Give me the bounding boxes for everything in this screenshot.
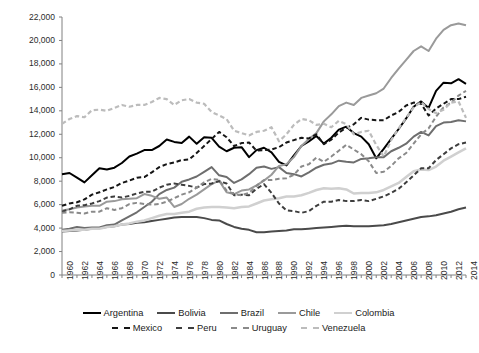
x-tick-label: 2002 bbox=[380, 261, 389, 280]
y-tick-label: 16,000 bbox=[0, 83, 55, 92]
series-line-mexico bbox=[62, 97, 466, 206]
legend-item-uruguay[interactable]: Uruguay bbox=[231, 324, 287, 333]
legend-item-peru[interactable]: Peru bbox=[176, 324, 217, 333]
legend-item-colombia[interactable]: Colombia bbox=[334, 309, 394, 318]
legend-item-bolivia[interactable]: Bolivia bbox=[157, 309, 205, 318]
legend-label: Argentina bbox=[104, 309, 144, 318]
y-tick-label: 0 bbox=[0, 271, 55, 280]
legend-swatch-icon bbox=[278, 312, 296, 314]
x-tick-label: 2008 bbox=[425, 261, 434, 280]
series-line-brazil bbox=[62, 120, 466, 230]
y-tick-label: 10,000 bbox=[0, 153, 55, 162]
legend-row-2: MexicoPeruUruguayVenezuela bbox=[0, 321, 477, 336]
y-tick-label: 4,000 bbox=[0, 224, 55, 233]
x-tick-label: 1974 bbox=[171, 261, 180, 280]
series-line-uruguay bbox=[62, 91, 466, 214]
x-tick-label: 2000 bbox=[365, 261, 374, 280]
axis-group bbox=[62, 17, 466, 275]
x-tick-label: 1976 bbox=[186, 261, 195, 280]
y-tick-label: 20,000 bbox=[0, 36, 55, 45]
x-tick-label: 1994 bbox=[320, 261, 329, 280]
x-tick-label: 1964 bbox=[96, 261, 105, 280]
x-tick-label: 1990 bbox=[290, 261, 299, 280]
legend-label: Uruguay bbox=[252, 324, 287, 333]
legend-label: Colombia bbox=[355, 309, 394, 318]
x-tick-label: 1992 bbox=[305, 261, 314, 280]
x-tick-label: 1978 bbox=[201, 261, 210, 280]
legend-swatch-icon bbox=[301, 327, 319, 329]
x-tick-label: 1966 bbox=[111, 261, 120, 280]
legend-item-brazil[interactable]: Brazil bbox=[220, 309, 264, 318]
legend-item-venezuela[interactable]: Venezuela bbox=[301, 324, 365, 333]
legend-label: Peru bbox=[197, 324, 217, 333]
legend-swatch-icon bbox=[112, 327, 130, 329]
x-tick-label: 1982 bbox=[231, 261, 240, 280]
x-tick-label: 1996 bbox=[335, 261, 344, 280]
legend-swatch-icon bbox=[231, 327, 249, 329]
x-tick-label: 1980 bbox=[216, 261, 225, 280]
legend-swatch-icon bbox=[334, 312, 352, 314]
legend-label: Chile bbox=[299, 309, 320, 318]
legend-label: Venezuela bbox=[322, 324, 365, 333]
x-tick-label: 2006 bbox=[410, 261, 419, 280]
x-tick-label: 1962 bbox=[81, 261, 90, 280]
y-tick-label: 6,000 bbox=[0, 200, 55, 209]
x-tick-label: 2012 bbox=[455, 261, 464, 280]
x-tick-label: 1960 bbox=[66, 261, 75, 280]
y-tick-label: 2,000 bbox=[0, 247, 55, 256]
x-tick-label: 1970 bbox=[141, 261, 150, 280]
x-tick-label: 1972 bbox=[156, 261, 165, 280]
legend-label: Mexico bbox=[133, 324, 162, 333]
x-tick-label: 1986 bbox=[261, 261, 270, 280]
legend-item-chile[interactable]: Chile bbox=[278, 309, 320, 318]
legend-swatch-icon bbox=[83, 312, 101, 314]
x-tick-label: 1998 bbox=[350, 261, 359, 280]
legend-item-argentina[interactable]: Argentina bbox=[83, 309, 144, 318]
legend-label: Brazil bbox=[241, 309, 264, 318]
legend-item-mexico[interactable]: Mexico bbox=[112, 324, 162, 333]
y-tick-label: 22,000 bbox=[0, 13, 55, 22]
series-lines bbox=[62, 23, 466, 232]
y-tick-label: 14,000 bbox=[0, 106, 55, 115]
x-tick-label: 1984 bbox=[246, 261, 255, 280]
legend-swatch-icon bbox=[157, 312, 175, 314]
x-tick-label: 1988 bbox=[275, 261, 284, 280]
x-tick-label: 2014 bbox=[470, 261, 479, 280]
chart-legend: ArgentinaBoliviaBrazilChileColombiaMexic… bbox=[0, 306, 477, 336]
y-tick-label: 12,000 bbox=[0, 130, 55, 139]
y-tick-label: 18,000 bbox=[0, 59, 55, 68]
legend-row-1: ArgentinaBoliviaBrazilChileColombia bbox=[0, 306, 477, 321]
x-tick-label: 2004 bbox=[395, 261, 404, 280]
x-tick-label: 1968 bbox=[126, 261, 135, 280]
y-tick-label: 8,000 bbox=[0, 177, 55, 186]
legend-swatch-icon bbox=[176, 327, 194, 329]
legend-label: Bolivia bbox=[178, 309, 205, 318]
legend-swatch-icon bbox=[220, 312, 238, 314]
series-line-colombia bbox=[62, 148, 466, 231]
x-tick-label: 2010 bbox=[440, 261, 449, 280]
